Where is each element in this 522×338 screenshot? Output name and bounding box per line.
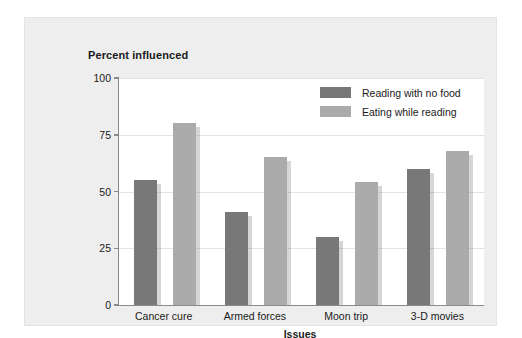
bar-body [173,123,196,305]
bar [446,151,469,305]
legend-label: Eating while reading [362,106,457,118]
chart-figure: Percent influenced 0255075100 Issues Rea… [0,0,522,338]
x-tick-label: Moon trip [324,310,368,322]
bar-shadow [469,155,473,305]
bar-body [316,237,339,305]
x-tick-label: 3-D movies [411,310,464,322]
x-tick-label: Cancer cure [135,310,192,322]
y-tick-mark [114,77,119,79]
y-tick-mark [114,134,119,136]
bar-shadow [196,127,200,305]
bar [316,237,339,305]
bar-body [225,212,248,305]
bar [355,182,378,305]
y-tick-label: 25 [99,242,111,254]
legend-item: Reading with no food [320,84,461,101]
y-tick-label: 100 [93,72,111,84]
chart-panel: Percent influenced 0255075100 Issues Rea… [25,18,496,325]
y-tick-label: 75 [99,129,111,141]
y-gridline [119,78,484,79]
y-tick-label: 0 [105,299,111,311]
bar-shadow [430,173,434,305]
bar [134,180,157,305]
bar [225,212,248,305]
bar-body [264,157,287,305]
x-axis-title: Issues [284,328,317,338]
bar-shadow [157,184,161,305]
legend-swatch-eating-while-reading [320,106,351,117]
bar-body [446,151,469,305]
chart-legend: Reading with no food Eating while readin… [320,84,461,122]
x-tick-label: Armed forces [224,310,286,322]
bar [264,157,287,305]
y-tick-mark [114,191,119,193]
bar-body [134,180,157,305]
legend-item: Eating while reading [320,103,461,120]
legend-swatch-reading-with-no-food [320,87,351,98]
y-tick-mark [114,304,119,306]
legend-label: Reading with no food [362,87,461,99]
bar-shadow [378,186,382,305]
chart-title: Percent influenced [88,49,188,61]
bar-shadow [287,161,291,305]
bar [407,169,430,305]
y-tick-label: 50 [99,186,111,198]
bar-shadow [339,241,343,305]
bar-body [355,182,378,305]
y-tick-mark [114,248,119,250]
bar-shadow [248,216,252,305]
bar [173,123,196,305]
bar-body [407,169,430,305]
